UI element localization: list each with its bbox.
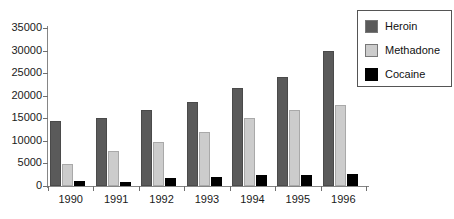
bar-group [96, 28, 131, 186]
bar-heroin-1996 [323, 51, 334, 186]
x-axis-category-label: 1996 [321, 193, 366, 205]
x-axis-tick [321, 186, 322, 191]
y-axis-label-wrap: 5000 [0, 157, 42, 168]
bar-cocaine-1994 [256, 175, 267, 186]
y-axis-tick-label: 35000 [0, 22, 42, 33]
bar-group [277, 28, 312, 186]
bar-group [50, 28, 85, 186]
bar-cocaine-1993 [211, 177, 222, 186]
y-axis-tick-label: 30000 [0, 45, 42, 56]
y-axis-tick [43, 96, 48, 97]
y-axis-label-wrap: 25000 [0, 67, 42, 78]
y-axis-label-wrap: 30000 [0, 45, 42, 56]
chart-legend: HeroinMethadoneCocaine [357, 10, 452, 87]
x-axis-tick [48, 186, 49, 191]
bar-heroin-1995 [277, 77, 288, 186]
x-axis-category-label: 1992 [139, 193, 184, 205]
x-axis-category-label: 1991 [93, 193, 138, 205]
bar-cocaine-1990 [74, 181, 85, 186]
bar-cocaine-1991 [120, 182, 131, 187]
y-axis-label-wrap: 20000 [0, 90, 42, 101]
x-axis-tick [275, 186, 276, 191]
y-axis-label-wrap: 15000 [0, 112, 42, 123]
bar-methadone-1990 [62, 164, 73, 186]
bar-group [141, 28, 176, 186]
bar-chart: 05000100001500020000250003000035000 1990… [0, 0, 454, 219]
bar-group [187, 28, 222, 186]
x-axis-category-label: 1993 [184, 193, 229, 205]
bar-methadone-1991 [108, 151, 119, 186]
y-axis-tick-label: 20000 [0, 90, 42, 101]
x-axis-tick [366, 186, 367, 191]
y-axis-tick-label: 10000 [0, 135, 42, 146]
bar-methadone-1996 [335, 105, 346, 186]
y-axis-tick [43, 141, 48, 142]
x-axis-tick [93, 186, 94, 191]
y-axis-tick [43, 163, 48, 164]
legend-swatch-methadone-icon [365, 44, 378, 57]
y-axis-tick [43, 51, 48, 52]
y-axis-tick [43, 28, 48, 29]
bar-heroin-1990 [50, 121, 61, 186]
bar-group [323, 28, 358, 186]
legend-label: Heroin [385, 20, 417, 32]
x-axis-category-label: 1990 [48, 193, 93, 205]
y-axis-tick-label: 25000 [0, 67, 42, 78]
y-axis-tick-label: 5000 [0, 157, 42, 168]
legend-item-cocaine[interactable]: Cocaine [365, 67, 425, 81]
legend-item-methadone[interactable]: Methadone [365, 43, 440, 57]
y-axis-tick [43, 118, 48, 119]
bar-heroin-1994 [232, 88, 243, 186]
bar-heroin-1992 [141, 110, 152, 186]
y-axis-label-wrap: 10000 [0, 135, 42, 146]
y-axis-tick-label: 0 [0, 180, 42, 191]
y-axis-tick-label: 15000 [0, 112, 42, 123]
x-axis-tick [230, 186, 231, 191]
bar-methadone-1995 [289, 110, 300, 186]
bar-heroin-1991 [96, 118, 107, 186]
bar-cocaine-1992 [165, 178, 176, 186]
bar-methadone-1993 [199, 132, 210, 186]
bar-methadone-1992 [153, 142, 164, 186]
legend-label: Cocaine [385, 68, 425, 80]
y-axis-label-wrap: 0 [0, 180, 42, 191]
legend-item-heroin[interactable]: Heroin [365, 19, 417, 33]
bar-group [232, 28, 267, 186]
x-axis-tick [184, 186, 185, 191]
bar-cocaine-1995 [301, 175, 312, 186]
y-axis-label-wrap: 35000 [0, 22, 42, 33]
bar-heroin-1993 [187, 102, 198, 186]
x-axis-tick [139, 186, 140, 191]
x-axis-category-label: 1994 [230, 193, 275, 205]
legend-swatch-cocaine-icon [365, 68, 378, 81]
x-axis-category-label: 1995 [275, 193, 320, 205]
bar-methadone-1994 [244, 118, 255, 186]
bar-cocaine-1996 [347, 174, 358, 186]
y-axis-tick [43, 73, 48, 74]
legend-label: Methadone [385, 44, 440, 56]
legend-swatch-heroin-icon [365, 20, 378, 33]
